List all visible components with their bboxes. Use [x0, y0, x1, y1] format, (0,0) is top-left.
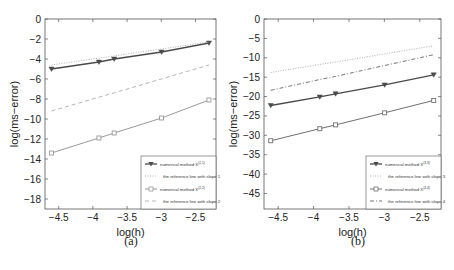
legend-entry: numerical method X(1,1): [160, 161, 205, 167]
y-tick-label: 0: [254, 14, 260, 25]
x-tick-label: −3: [156, 212, 168, 223]
y-tick-label: −35: [243, 149, 260, 160]
square-marker-icon: [160, 116, 164, 120]
x-tick-label: −4.5: [268, 212, 288, 223]
square-marker-icon: [269, 139, 273, 143]
y-tick-label: −40: [243, 169, 260, 180]
chart-panel-b: 0−5−10−15−20−25−30−35−40−45−4.5−4−3.5−3−…: [227, 14, 446, 249]
square-marker-icon: [112, 131, 116, 135]
series-line: [271, 75, 434, 106]
y-tick-label: −30: [243, 130, 260, 141]
y-tick-label: −2: [30, 34, 42, 45]
chart-panel-a: 0−2−4−6−8−10−12−14−16−18−4.5−4−3.5−3−2.5…: [8, 14, 221, 249]
x-tick-label: −4.5: [49, 212, 69, 223]
square-marker-icon: [374, 187, 378, 191]
legend-entry: the reference line with slope 2: [163, 199, 221, 204]
x-tick-label: −4: [308, 212, 320, 223]
legend: numerical method X(1,1)the reference lin…: [141, 156, 221, 209]
legend-entry: numerical method X(2,2): [160, 186, 205, 192]
y-axis-label: log(ms−error): [8, 81, 20, 147]
x-tick-label: −2.5: [186, 212, 206, 223]
y-tick-label: −20: [243, 91, 260, 102]
panel-caption: (a): [124, 234, 137, 248]
legend-entry: the reference line with slope 1: [163, 174, 221, 179]
square-marker-icon: [49, 151, 53, 155]
square-marker-icon: [207, 98, 211, 102]
y-tick-label: −12: [24, 134, 41, 145]
x-tick-label: −4: [87, 212, 99, 223]
y-tick-label: −45: [243, 188, 260, 199]
y-tick-label: −6: [30, 74, 42, 85]
x-tick-label: −3.5: [339, 212, 359, 223]
y-tick-label: −10: [24, 114, 41, 125]
x-tick-label: −2.5: [410, 212, 430, 223]
figure: 0−2−4−6−8−10−12−14−16−18−4.5−4−3.5−3−2.5…: [0, 0, 454, 270]
square-marker-icon: [432, 98, 436, 102]
square-marker-icon: [383, 111, 387, 115]
legend-entry: numerical method X(3,3): [385, 161, 430, 167]
x-tick-label: −3: [379, 212, 391, 223]
legend-entry: the reference line with slope 3: [388, 174, 446, 179]
square-marker-icon: [334, 123, 338, 127]
square-marker-icon: [318, 127, 322, 131]
series-line: [52, 65, 210, 111]
series-line: [52, 43, 210, 69]
y-tick-label: −4: [30, 54, 42, 65]
square-marker-icon: [97, 136, 101, 140]
square-marker-icon: [149, 187, 153, 191]
series-line: [271, 46, 434, 73]
y-tick-label: −8: [30, 94, 42, 105]
y-tick-label: −15: [243, 72, 260, 83]
panel-caption: (b): [351, 234, 365, 248]
y-tick-label: 0: [35, 14, 41, 25]
legend-entry: numerical method X(4,4): [385, 186, 430, 192]
series-line: [271, 100, 434, 140]
y-tick-label: −18: [24, 194, 41, 205]
legend-entry: the reference line with slope 4: [388, 199, 446, 204]
legend: numerical method X(3,3)the reference lin…: [366, 156, 446, 209]
series-line: [271, 55, 434, 91]
y-axis-label: log(ms−error): [227, 81, 239, 147]
y-tick-label: −14: [24, 154, 41, 165]
y-tick-label: −16: [24, 174, 41, 185]
series-line: [52, 100, 210, 153]
y-tick-label: −25: [243, 110, 260, 121]
series-line: [52, 42, 210, 65]
y-tick-label: −10: [243, 52, 260, 63]
x-tick-label: −3.5: [117, 212, 137, 223]
y-tick-label: −5: [249, 33, 261, 44]
